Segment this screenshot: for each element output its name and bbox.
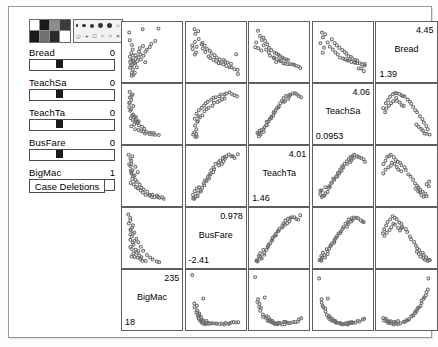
slider-label: BigMac [29,167,61,178]
dot-l-icon[interactable] [98,23,103,28]
data-point [194,128,197,131]
data-point [139,53,142,56]
data-point [190,274,193,277]
splom-panel-bread-vs-busfare[interactable] [375,207,437,269]
circle-icon[interactable]: ○ [101,33,105,39]
splom-panel-bread-vs-teachsa[interactable] [375,83,437,145]
case-deletions-button[interactable]: Case Deletions [29,179,105,193]
splom-panel-busfare-vs-teachta[interactable] [185,145,247,207]
color-swatch[interactable] [30,31,40,42]
slider-track[interactable] [29,59,115,71]
symbol-palette-bottom-row[interactable]: ◇+□○○× [74,30,122,41]
data-point [193,117,196,120]
slider-track[interactable] [29,149,115,161]
data-point [299,67,302,70]
splom-panel-teachsa-vs-bigmac[interactable] [312,269,374,331]
color-swatch[interactable] [50,31,60,42]
data-point [128,39,131,42]
splom-diagonal-bigmac[interactable]: 235BigMac18 [121,269,183,331]
splom-panel-teachsa-vs-busfare[interactable] [312,207,374,269]
slider-thumb[interactable] [56,150,63,158]
diamond-icon[interactable]: ◇ [76,33,81,39]
data-point [387,98,390,101]
data-point [324,186,327,189]
slider-track[interactable] [29,89,115,101]
color-swatch[interactable] [30,20,40,31]
data-point [200,186,203,189]
circle-open-icon[interactable]: ○ [108,33,112,39]
dot-s-icon[interactable] [82,24,85,27]
color-palette[interactable] [29,19,71,43]
scatterplot-matrix: 4.45Bread1.394.06TeachSa0.09534.01TeachT… [121,21,438,331]
symbol-palette[interactable]: ○ ◇+□○○× [73,19,123,43]
plus-icon[interactable]: + [85,33,89,39]
splom-panel-teachsa-vs-teachta[interactable] [312,145,374,207]
circle-open-icon[interactable]: ○ [116,23,120,29]
splom-panel-busfare-vs-bread[interactable] [185,21,247,83]
data-point [397,320,400,323]
splom-panel-busfare-vs-bigmac[interactable] [185,269,247,331]
data-point [142,54,145,57]
color-swatch[interactable] [50,20,60,31]
cross-icon[interactable]: × [116,33,120,39]
color-swatch[interactable] [60,20,70,31]
data-point [137,241,140,244]
splom-panel-bread-vs-bigmac[interactable] [375,269,437,331]
data-point [128,106,131,109]
data-point [131,224,134,227]
data-point [259,34,262,37]
slider-thumb[interactable] [56,120,63,128]
splom-panel-teachsa-vs-bread[interactable] [312,21,374,83]
splom-diagonal-busfare[interactable]: 0.978BusFare-2.41 [185,207,247,269]
data-point [264,40,267,43]
splom-panel-busfare-vs-teachsa[interactable] [185,83,247,145]
data-point [133,231,136,234]
data-point [134,58,137,61]
color-swatch[interactable] [40,31,50,42]
data-point [130,125,133,128]
splom-diagonal-bread[interactable]: 4.45Bread1.39 [375,21,437,83]
splom-panel-bigmac-vs-teachta[interactable] [121,145,183,207]
splom-diagonal-teachta[interactable]: 4.01TeachTa1.46 [248,145,310,207]
data-point [388,229,391,232]
data-point [386,231,389,234]
dot-xs-icon[interactable] [76,24,78,26]
splom-panel-teachta-vs-busfare[interactable] [248,207,310,269]
data-point [415,187,418,190]
color-swatch[interactable] [40,20,50,31]
data-point [203,110,206,113]
dot-xl-icon[interactable] [107,23,113,29]
splom-panel-teachta-vs-bread[interactable] [248,21,310,83]
data-point [427,128,430,131]
data-point [213,54,216,57]
data-point [422,129,425,132]
splom-panel-bigmac-vs-bread[interactable] [121,21,183,83]
data-point [406,231,409,234]
slider-value: 0 [110,107,115,118]
slider-thumb[interactable] [56,90,63,98]
splom-panel-bigmac-vs-busfare[interactable] [121,207,183,269]
application-window: ○ ◇+□○○× Bread0TeachSa0TeachTa0BusFare0B… [0,0,438,347]
data-point [300,317,303,320]
splom-diagonal-teachsa[interactable]: 4.06TeachSa0.0953 [312,83,374,145]
slider-thumb[interactable] [56,60,63,68]
data-point [127,213,130,216]
data-point [132,183,135,186]
splom-panel-bread-vs-teachta[interactable] [375,145,437,207]
square-icon[interactable]: □ [93,33,97,39]
data-point [219,93,222,96]
data-point [211,104,214,107]
splom-panel-bigmac-vs-teachsa[interactable] [121,83,183,145]
data-point [336,53,339,56]
slider-track[interactable] [29,119,115,131]
splom-panel-teachta-vs-teachsa[interactable] [248,83,310,145]
dot-m-icon[interactable] [90,24,94,28]
data-point [136,171,139,174]
data-point [229,62,232,65]
variable-max-value: 0.978 [220,211,243,221]
data-point [132,252,135,255]
data-point [223,97,226,100]
data-point [142,188,145,191]
splom-panel-teachta-vs-bigmac[interactable] [248,269,310,331]
color-swatch[interactable] [60,31,70,42]
